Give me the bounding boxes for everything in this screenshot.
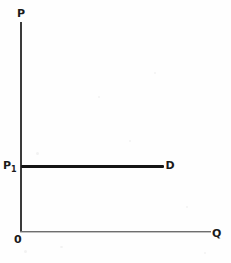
scan-speckle <box>186 206 188 208</box>
price-axis-label: P <box>17 8 25 19</box>
price-axis-line <box>20 22 22 232</box>
scan-speckle <box>129 140 131 142</box>
quantity-axis-label: Q <box>212 228 221 239</box>
price-level-label: P1 <box>3 160 17 172</box>
scan-speckle <box>36 152 39 155</box>
origin-label: 0 <box>14 234 22 245</box>
demand-curve-figure: P P1 D 0 Q <box>0 0 231 263</box>
demand-curve-label: D <box>166 160 175 171</box>
scan-speckle <box>60 246 63 248</box>
scan-speckle <box>98 96 100 98</box>
quantity-axis-line <box>20 231 211 232</box>
price-level-subscript: 1 <box>11 165 17 174</box>
scan-speckle <box>204 252 206 254</box>
price-level-letter: P <box>3 159 11 172</box>
demand-curve-line <box>21 165 164 168</box>
scan-speckle <box>24 250 27 253</box>
scan-speckle <box>154 72 156 74</box>
